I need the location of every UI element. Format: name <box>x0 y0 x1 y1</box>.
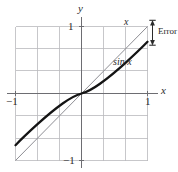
x-axis-label: x <box>161 85 166 96</box>
sine-curve-label: sin x <box>113 57 132 67</box>
error-annotation-label: Error <box>158 27 177 36</box>
y-tick-label-negative: −1 <box>63 155 75 166</box>
error-arrow <box>149 20 155 46</box>
y-axis-label: y <box>78 3 83 14</box>
sine-approximation-figure: y x 1 −1 −1 1 x sin x Error <box>0 0 178 172</box>
x-tick-label-negative: −1 <box>6 96 18 107</box>
identity-line-label: x <box>124 17 128 27</box>
x-tick-label-positive: 1 <box>145 96 151 107</box>
y-tick-label-positive: 1 <box>68 21 74 32</box>
plot-canvas <box>0 0 178 172</box>
